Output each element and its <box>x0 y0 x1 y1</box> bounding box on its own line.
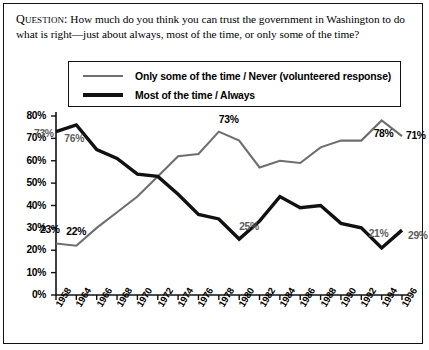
data-point-label: 76% <box>64 133 84 144</box>
data-point-label: 71% <box>406 130 426 141</box>
data-point-label: 21% <box>369 228 389 239</box>
y-tick-label: 50% <box>12 177 46 188</box>
data-point-label: 23% <box>40 224 60 235</box>
y-tick-label: 10% <box>12 267 46 278</box>
y-tick-label: 20% <box>12 244 46 255</box>
data-point-label: 73% <box>219 114 239 125</box>
figure-frame: Question: How much do you think you can … <box>3 3 423 344</box>
data-point-label: 25% <box>239 221 259 232</box>
y-tick-label: 80% <box>12 110 46 121</box>
y-tick-label: 60% <box>12 155 46 166</box>
plot-area: 80%70%60%50%40%30%20%10%0% 1958196419661… <box>4 4 424 345</box>
y-tick-label: 40% <box>12 200 46 211</box>
data-point-label: 73% <box>34 128 54 139</box>
data-point-label: 29% <box>408 230 428 241</box>
y-tick-label: 0% <box>12 289 46 300</box>
data-point-label: 78% <box>374 128 394 139</box>
data-point-label: 22% <box>66 226 86 237</box>
